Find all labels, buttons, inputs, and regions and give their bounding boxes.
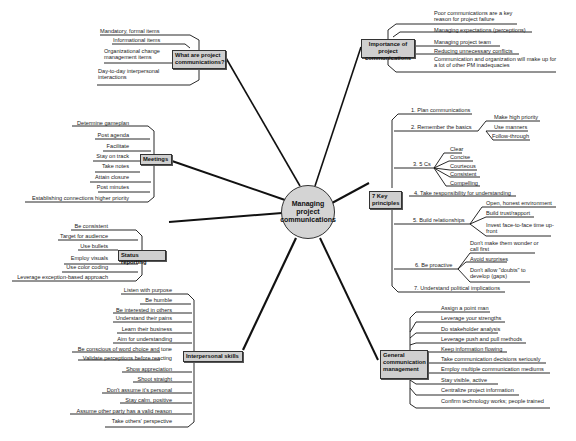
node-general-communication-management[interactable]: General communication management	[380, 350, 428, 379]
list-item: Post agenda	[40, 132, 129, 138]
list-item: Facilitate	[40, 143, 129, 149]
list-item: Take notes	[40, 163, 129, 169]
node-meetings[interactable]: Meetings	[140, 154, 172, 165]
list-item: Leverage push and pull methods	[441, 336, 522, 342]
list-item: Managing project team	[434, 39, 491, 45]
principle-sub-item: Invest face-to-face time up-front	[486, 222, 558, 235]
list-item: Don't assume it's personal	[60, 387, 172, 393]
list-item: Employ multiple communication mediums	[441, 366, 544, 372]
node-status-reporting[interactable]: Status reporting	[118, 250, 166, 261]
list-item: Reducing unnecessary conflicts	[434, 48, 513, 54]
list-item: Informational items	[113, 37, 160, 43]
principle-item: 1. Plan communications	[411, 107, 470, 113]
list-item: Leverage exception-based approach	[10, 274, 108, 280]
principle-sub-item: Don't make them wonder or call first	[470, 240, 540, 253]
list-item: Day-to-day interpersonal interactions	[98, 68, 164, 81]
list-item: Keep information flowing	[441, 346, 502, 352]
node-7-key-principles[interactable]: 7 Key principles	[369, 191, 402, 209]
list-item: Do stakeholder analysis	[441, 326, 500, 332]
principle-sub-item: Open, honest environment	[486, 200, 552, 206]
list-item: Use bullets	[40, 243, 108, 249]
center-topic[interactable]: Managing project communications	[281, 185, 335, 239]
list-item: Attain closure	[40, 174, 129, 180]
list-item: Be interested in others	[60, 307, 172, 313]
list-item: Be humble	[60, 297, 172, 303]
list-item: Communication and organization will make…	[434, 56, 559, 69]
mind-map-canvas: Managing project communications What are…	[0, 0, 576, 441]
principle-sub-item: Avoid surprises	[470, 256, 508, 262]
list-item: Assign a point man	[441, 305, 489, 311]
list-item: Post minutes	[40, 184, 129, 190]
node-what-are-project-communications[interactable]: What are project communications?	[172, 50, 226, 69]
list-item: Target for audience	[40, 233, 108, 239]
list-item: Use color coding	[40, 264, 108, 270]
principle-item: 4. Take responsibility for understanding	[414, 190, 511, 196]
list-item: Shoot straight	[60, 376, 172, 382]
list-item: Be conscious of word choice and tone	[40, 346, 172, 352]
list-item: Stay visible, active	[441, 377, 487, 383]
list-item: Be consistent	[40, 223, 108, 229]
list-item: Understand their pains	[60, 315, 172, 321]
list-item: Take others' perspective	[60, 418, 172, 424]
list-item: Employ visuals	[40, 255, 108, 261]
principle-sub-item: Make high priority	[494, 114, 538, 120]
list-item: Leverage your strengths	[441, 315, 501, 321]
principle-item: 5. Build relationships	[413, 217, 465, 223]
node-importance-of-project-communications[interactable]: Importance of project communications	[361, 39, 415, 58]
list-item: Aim for understanding	[60, 336, 172, 342]
list-item: Centralize project information	[441, 387, 514, 393]
list-item: Managing expectations (perceptions)	[434, 27, 526, 33]
list-item: Determine gameplan	[40, 120, 129, 126]
principle-sub-item: Courteous	[450, 163, 476, 169]
principle-sub-item: Build trust/rapport	[486, 210, 530, 216]
principle-sub-item: Concise	[450, 154, 470, 160]
list-item: Establishing connections higher priority	[10, 195, 129, 201]
principle-sub-item: Use manners	[494, 124, 527, 130]
list-item: Organizational change management items	[104, 48, 166, 61]
center-topic-label: Managing project communications	[280, 200, 336, 224]
principle-sub-item: Don't allow "doubts" to develop (gaps)	[470, 267, 536, 280]
principle-item: 2. Remember the basics	[411, 124, 472, 130]
list-item: Poor communications are a key reason for…	[434, 10, 524, 23]
list-item: Confirm technology works; people trained	[441, 398, 544, 404]
list-item: Stay calm, positive	[60, 397, 172, 403]
list-item: Validate perceptions before reacting	[40, 355, 172, 361]
list-item: Show appreciation	[60, 366, 172, 372]
list-item: Stay on track	[40, 153, 129, 159]
list-item: Mandatory, formal items	[100, 28, 160, 34]
list-item: Learn their business	[60, 326, 172, 332]
node-interpersonal-skills[interactable]: Interpersonal skills	[183, 351, 243, 362]
principle-sub-item: Follow-through	[492, 133, 529, 139]
principle-item: 6. Be proactive	[415, 262, 452, 268]
principle-sub-item: Consistent	[450, 171, 476, 177]
list-item: Assume other party has a valid reason	[40, 408, 172, 414]
principle-item: 3. 5 Cs	[413, 161, 431, 167]
principle-sub-item: Clear	[450, 146, 463, 152]
principle-sub-item: Compelling	[450, 180, 478, 186]
list-item: Take communication decisions seriously	[441, 356, 541, 362]
principle-item: 7. Understand political implications	[414, 285, 500, 291]
list-item: Listen with purpose	[60, 287, 172, 293]
